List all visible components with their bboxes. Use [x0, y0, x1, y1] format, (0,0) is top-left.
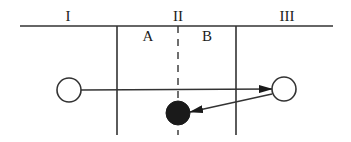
subregion-label-b: B: [202, 28, 212, 44]
forward-arrow: [81, 89, 272, 90]
final-particle-filled-circle: [166, 101, 190, 125]
region-label-iii: III: [280, 8, 295, 24]
return-arrow: [190, 94, 272, 112]
initial-particle-open-circle: [57, 78, 81, 102]
region-label-ii: II: [173, 8, 183, 24]
region-label-i: I: [66, 8, 71, 24]
subregion-label-a: A: [143, 28, 154, 44]
turning-particle-open-circle: [272, 77, 296, 101]
region-diagram: I II III A B: [0, 0, 351, 142]
